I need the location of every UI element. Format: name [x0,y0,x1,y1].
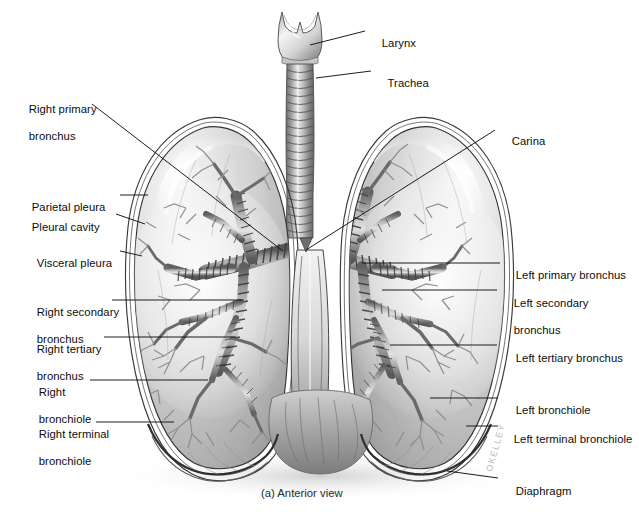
larynx-structure [278,12,322,66]
figure-caption: (a) Anterior view [261,487,343,499]
label-left-terminal-bronchiole: Left terminal bronchiole [501,420,632,460]
mediastinum [291,238,329,396]
leader-trachea [316,71,371,78]
label-larynx: Larynx [369,24,416,64]
respiratory-system-figure: Right primary bronchus Parietal pleura P… [0,0,639,520]
label-left-tertiary-bronchus: Left tertiary bronchus [503,339,623,379]
label-visceral-pleura: Visceral pleura [24,244,112,284]
trachea-structure [286,64,314,238]
label-right-primary-bronchus: Right primary bronchus [16,90,97,156]
label-pleural-cavity: Pleural cavity [19,208,100,248]
label-carina: Carina [499,122,545,162]
label-diaphragm: Diaphragm [503,472,571,512]
label-right-terminal-bronchiole: Right terminal bronchiole [26,415,109,481]
label-trachea: Trachea [375,64,429,104]
label-right-primary-bronchus-line2: bronchus [29,130,76,142]
label-right-primary-bronchus-line1: Right primary [29,103,97,115]
